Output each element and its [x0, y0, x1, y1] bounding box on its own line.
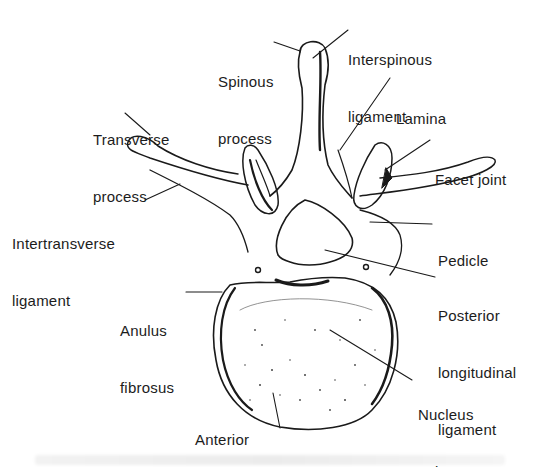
label-line: Intertransverse [12, 234, 115, 253]
label-line: fibrosus [120, 378, 174, 397]
label-line: Transverse [93, 130, 169, 149]
label-line: Nucleus [418, 405, 480, 424]
posterior-ligament-band [276, 280, 328, 285]
label-line: Anulus [120, 321, 174, 340]
label-line: Spinous [218, 72, 274, 91]
label-line: Posterior [438, 306, 516, 325]
vertebral-foramen [277, 200, 353, 265]
illegible-caption [35, 455, 505, 465]
interspinous-shade [319, 52, 320, 150]
label-line: process [218, 129, 274, 148]
pedicle-right-mark [364, 265, 369, 270]
vertebra-diagram: Spinous process Interspinous ligament La… [0, 0, 552, 467]
label-nucleus-pulposus: Nucleus pulposus [418, 367, 480, 467]
label-anulus-fibrosus: Anulus fibrosus [120, 283, 174, 435]
spinous-process-left [270, 52, 303, 196]
label-line: Facet joint [435, 170, 506, 189]
nucleus-inner-arc [240, 299, 372, 310]
label-line: Interspinous [348, 50, 432, 69]
label-line: Lamina [396, 109, 446, 128]
pedicle-left-mark [256, 268, 261, 273]
transverse-process-right-lower [360, 210, 402, 275]
label-line: Anterior [195, 430, 273, 449]
label-intertransverse-ligament: Intertransverse ligament [12, 196, 115, 348]
label-spinous-process: Spinous process [218, 34, 274, 186]
spinous-process [300, 42, 352, 198]
label-line: ligament [12, 291, 115, 310]
